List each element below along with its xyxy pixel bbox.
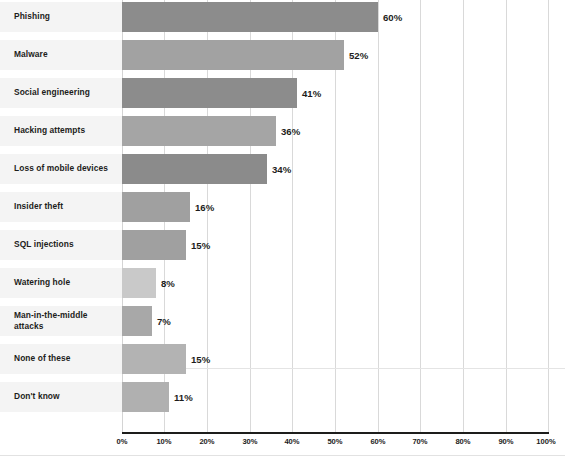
- horizontal-bar-chart: Phishing 60% Malware 52% Social engineer…: [0, 0, 565, 456]
- x-axis-tick-label: 70%: [412, 437, 427, 446]
- bar-value-label: 60%: [383, 2, 402, 32]
- bar: [122, 78, 297, 108]
- x-axis-tick-label: 90%: [498, 437, 513, 446]
- bar-row-loss-of-mobile-devices: Loss of mobile devices 34%: [0, 154, 565, 184]
- x-axis-tick-label: 20%: [199, 437, 214, 446]
- x-axis-tick-label: 80%: [455, 437, 470, 446]
- bar: [122, 192, 190, 222]
- bar-value-label: 41%: [302, 78, 321, 108]
- bar: [122, 154, 267, 184]
- x-axis-tick-label: 10%: [156, 437, 171, 446]
- category-label: Loss of mobile devices: [14, 154, 118, 184]
- x-axis-tick-label: 40%: [284, 437, 299, 446]
- category-label: SQL injections: [14, 230, 118, 260]
- bar: [122, 2, 378, 32]
- category-label: Insider theft: [14, 192, 118, 222]
- bar-row-malware: Malware 52%: [0, 40, 565, 70]
- bar-value-label: 15%: [191, 344, 210, 374]
- bar-value-label: 16%: [195, 192, 214, 222]
- bar-row-man-in-the-middle-attacks: Man-in-the-middle attacks 7%: [0, 306, 565, 336]
- category-label: Man-in-the-middle attacks: [14, 306, 118, 336]
- bar-value-label: 11%: [174, 382, 193, 412]
- category-label: Social engineering: [14, 78, 118, 108]
- bar-row-social-engineering: Social engineering 41%: [0, 78, 565, 108]
- bar: [122, 230, 186, 260]
- category-label: Watering hole: [14, 268, 118, 298]
- bar: [122, 40, 344, 70]
- bar-value-label: 34%: [272, 154, 291, 184]
- category-label: Hacking attempts: [14, 116, 118, 146]
- x-axis-tick-label: 50%: [327, 437, 342, 446]
- category-label: None of these: [14, 344, 118, 374]
- bar-row-watering-hole: Watering hole 8%: [0, 268, 565, 298]
- category-label: Don't know: [14, 382, 118, 412]
- category-label: Phishing: [14, 2, 118, 32]
- x-axis-tick-label: 100%: [536, 437, 555, 446]
- bar-row-insider-theft: Insider theft 16%: [0, 192, 565, 222]
- x-axis-tick-label: 30%: [242, 437, 257, 446]
- bar: [122, 116, 276, 146]
- bar: [122, 344, 186, 374]
- x-axis-tick-label: 60%: [370, 437, 385, 446]
- bar-value-label: 15%: [191, 230, 210, 260]
- bar-row-phishing: Phishing 60%: [0, 2, 565, 32]
- bar-value-label: 8%: [161, 268, 175, 298]
- x-axis-line: [122, 432, 549, 434]
- x-axis-tick-label: 0%: [117, 437, 128, 446]
- bar-row-none-of-these: None of these 15%: [0, 344, 565, 374]
- bar: [122, 268, 156, 298]
- category-label: Malware: [14, 40, 118, 70]
- bar-value-label: 7%: [157, 306, 171, 336]
- bar: [122, 306, 152, 336]
- bar-row-hacking-attempts: Hacking attempts 36%: [0, 116, 565, 146]
- bar-row-sql-injections: SQL injections 15%: [0, 230, 565, 260]
- bar-value-label: 36%: [281, 116, 300, 146]
- bar-value-label: 52%: [349, 40, 368, 70]
- bar: [122, 382, 169, 412]
- bar-row-dont-know: Don't know 11%: [0, 382, 565, 412]
